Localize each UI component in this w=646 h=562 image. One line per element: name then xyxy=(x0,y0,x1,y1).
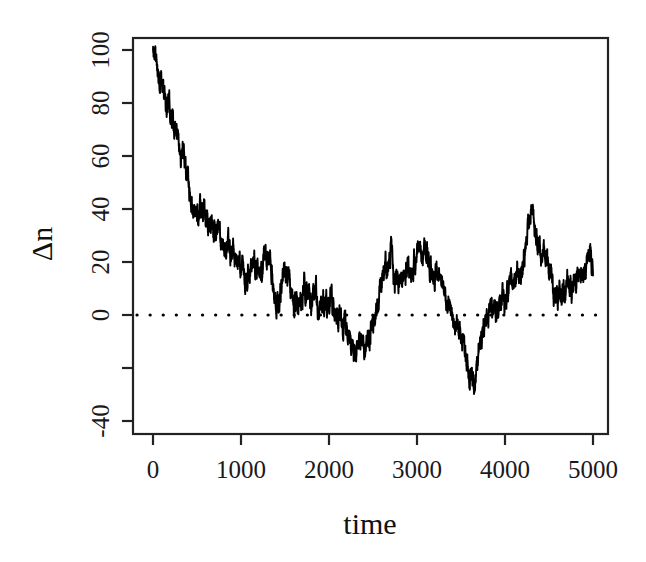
y-tick-marks xyxy=(122,50,133,421)
y-tick-label-80: 80 xyxy=(87,91,114,116)
x-tick-label-0: 0 xyxy=(147,456,160,483)
y-tick-label-60: 60 xyxy=(87,144,114,169)
y-tick-labels: 100 80 60 40 20 0 -40 xyxy=(87,31,114,437)
y-tick-label-minus40: -40 xyxy=(87,404,114,437)
x-tick-label-4000: 4000 xyxy=(480,456,530,483)
x-tick-label-1000: 1000 xyxy=(216,456,266,483)
y-axis-title: Δn xyxy=(25,227,58,261)
y-tick-label-0: 0 xyxy=(87,309,114,322)
y-tick-label-100: 100 xyxy=(87,31,114,69)
x-axis-title: time xyxy=(343,507,396,540)
x-tick-label-2000: 2000 xyxy=(304,456,354,483)
figure-container: 100 80 60 40 20 0 -40 0 1000 2000 3000 4… xyxy=(0,0,646,562)
x-tick-label-3000: 3000 xyxy=(392,456,442,483)
y-tick-label-40: 40 xyxy=(87,197,114,222)
y-tick-label-20: 20 xyxy=(87,250,114,275)
x-tick-labels: 0 1000 2000 3000 4000 5000 xyxy=(147,456,618,483)
x-tick-marks xyxy=(153,434,593,445)
x-tick-label-5000: 5000 xyxy=(568,456,618,483)
chart-canvas: 100 80 60 40 20 0 -40 0 1000 2000 3000 4… xyxy=(0,0,646,562)
data-series-delta-n xyxy=(153,46,593,394)
